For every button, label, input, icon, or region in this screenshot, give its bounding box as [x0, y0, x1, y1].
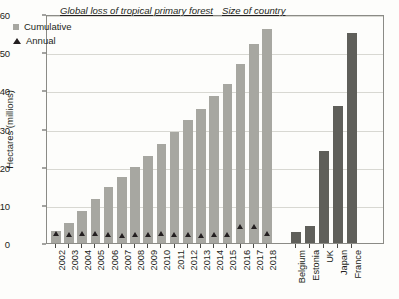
bar-cumulative: [77, 211, 87, 243]
legend-item-annual: Annual: [13, 34, 72, 48]
x-tick-mark: [213, 244, 214, 248]
x-tick-mark: [94, 244, 95, 248]
marker-annual: [66, 232, 72, 237]
marker-annual: [145, 232, 151, 237]
x-tick-mark: [108, 244, 109, 248]
bar-country: [319, 151, 329, 243]
x-tick-label: Japan: [338, 250, 350, 275]
marker-annual: [105, 232, 111, 237]
marker-annual: [119, 233, 125, 238]
marker-annual: [211, 232, 217, 237]
marker-annual: [237, 224, 243, 229]
country-section-title: Size of country: [222, 5, 285, 16]
x-tick-label: 2004: [82, 250, 94, 270]
x-tick-mark: [309, 244, 310, 248]
x-tick-mark: [323, 244, 324, 248]
chart-figure: Hectares (millions) 0102030405060 Global…: [0, 0, 399, 299]
marker-annual: [198, 233, 204, 238]
marker-annual: [251, 224, 257, 229]
legend-label-cumulative: Cumulative: [24, 20, 72, 34]
legend: Cumulative Annual: [13, 20, 72, 48]
plot-area: [46, 15, 384, 244]
y-tick-label: 20: [0, 162, 10, 173]
bar-cumulative: [249, 44, 259, 243]
x-tick-label: 2010: [161, 250, 173, 270]
x-tick-label: 2015: [227, 250, 239, 270]
bar-cumulative: [157, 144, 167, 243]
bar-cumulative: [196, 109, 206, 243]
x-tick-mark: [134, 244, 135, 248]
gridline: [47, 16, 383, 17]
y-tick-label: 10: [0, 200, 10, 211]
x-tick-label: 2003: [69, 250, 81, 270]
bar-country: [347, 33, 357, 243]
marker-annual: [132, 232, 138, 237]
x-tick-mark: [160, 244, 161, 248]
x-tick-label: Estonia: [310, 250, 322, 281]
x-tick-mark: [121, 244, 122, 248]
x-tick-mark: [266, 244, 267, 248]
bar-country: [333, 106, 343, 243]
x-tick-mark: [295, 244, 296, 248]
marker-annual: [92, 231, 98, 236]
x-tick-label: Belgium: [296, 250, 308, 283]
x-tick-label: France: [352, 250, 364, 279]
x-tick-mark: [147, 244, 148, 248]
bar-country: [305, 226, 315, 243]
x-tick-label: UK: [324, 250, 336, 263]
y-tick-label: 0: [0, 239, 10, 250]
x-tick-mark: [226, 244, 227, 248]
x-tick-mark: [200, 244, 201, 248]
x-tick-mark: [253, 244, 254, 248]
bar-cumulative: [223, 84, 233, 243]
x-tick-mark: [337, 244, 338, 248]
marker-annual: [79, 231, 85, 236]
x-tick-label: 2016: [241, 250, 253, 270]
bar-cumulative: [91, 199, 101, 243]
x-tick-label: 2002: [56, 250, 68, 270]
y-tick-label: 30: [0, 124, 10, 135]
x-tick-label: 2009: [148, 250, 160, 270]
x-tick-mark: [240, 244, 241, 248]
x-tick-label: 2017: [254, 250, 266, 270]
y-tick-label: 40: [0, 86, 10, 97]
legend-label-annual: Annual: [26, 34, 56, 48]
y-tick-label: 50: [0, 48, 10, 59]
x-tick-mark: [174, 244, 175, 248]
marker-annual: [264, 231, 270, 236]
bar-cumulative: [209, 96, 219, 243]
gridline: [47, 54, 383, 55]
x-tick-mark: [187, 244, 188, 248]
marker-annual: [224, 232, 230, 237]
triangle-marker-icon: [13, 38, 21, 44]
x-tick-label: 2011: [175, 250, 187, 270]
marker-annual: [171, 232, 177, 237]
gridline: [47, 92, 383, 93]
x-tick-label: 2014: [214, 250, 226, 270]
bar-cumulative: [170, 132, 180, 243]
x-tick-label: 2005: [95, 250, 107, 270]
bar-cumulative: [262, 29, 272, 243]
x-tick-mark: [351, 244, 352, 248]
x-tick-mark: [68, 244, 69, 248]
marker-annual: [158, 231, 164, 236]
x-tick-label: 2018: [267, 250, 279, 270]
chart-title: Global loss of tropical primary forest: [60, 5, 213, 16]
marker-annual: [53, 231, 59, 236]
bar-country: [291, 232, 301, 243]
y-tick-label: 60: [0, 10, 10, 21]
x-tick-mark: [81, 244, 82, 248]
x-tick-label: 2008: [135, 250, 147, 270]
x-tick-label: 2006: [109, 250, 121, 270]
bar-cumulative: [183, 120, 193, 243]
x-tick-label: 2007: [122, 250, 134, 270]
x-tick-mark: [55, 244, 56, 248]
x-tick-label: 2013: [201, 250, 213, 270]
marker-annual: [185, 232, 191, 237]
bar-cumulative: [236, 64, 246, 243]
bar-cumulative: [143, 156, 153, 243]
legend-item-cumulative: Cumulative: [13, 20, 72, 34]
square-marker-icon: [13, 24, 19, 30]
x-tick-label: 2012: [188, 250, 200, 270]
